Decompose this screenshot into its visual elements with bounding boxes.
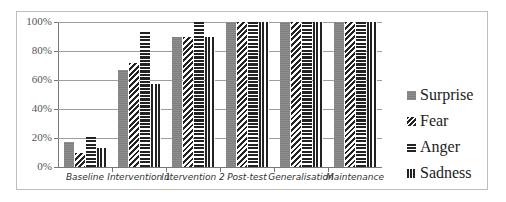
- y-tick-label: 100%: [12, 16, 52, 27]
- legend-item-sadness: Sadness: [407, 160, 473, 186]
- bar-sadness: [97, 148, 107, 167]
- y-tick-label: 20%: [12, 132, 52, 143]
- bar-fear: [129, 63, 139, 167]
- bar-surprise: [64, 142, 74, 167]
- y-tick: [54, 167, 58, 168]
- bar-anger: [302, 22, 312, 167]
- diagonal-stripes-swatch-icon: [407, 117, 416, 126]
- y-tick-label: 0%: [12, 161, 52, 172]
- legend-item-anger: Anger: [407, 134, 473, 160]
- category-group: [112, 22, 166, 167]
- legend-item-surprise: Surprise: [407, 82, 473, 108]
- legend: SurpriseFearAngerSadness: [407, 82, 473, 186]
- category-group: [220, 22, 274, 167]
- x-tick-label: Maintenance: [326, 172, 384, 182]
- bar-anger: [140, 31, 150, 167]
- legend-label: Anger: [420, 138, 460, 156]
- category-group: [166, 22, 220, 167]
- bar-sadness: [313, 22, 323, 167]
- bar-sadness: [367, 22, 377, 167]
- legend-label: Sadness: [420, 164, 472, 182]
- legend-item-fear: Fear: [407, 108, 473, 134]
- category-group: [328, 22, 382, 167]
- y-tick-label: 60%: [12, 74, 52, 85]
- bar-anger: [194, 22, 204, 167]
- bar-fear: [237, 22, 247, 167]
- legend-label: Fear: [420, 112, 448, 130]
- bar-sadness: [259, 22, 269, 167]
- bar-fear: [345, 22, 355, 167]
- x-tick-label: Baseline: [66, 172, 104, 182]
- x-tick-label: Generalisation: [268, 172, 333, 182]
- plot-area: 0%20%40%60%80%100%: [58, 22, 382, 167]
- bar-sadness: [151, 84, 161, 167]
- x-tick-label: Intervention 2: [161, 172, 225, 182]
- bar-surprise: [334, 22, 344, 167]
- bar-sadness: [205, 37, 215, 168]
- bar-surprise: [172, 37, 182, 168]
- x-tick-label: Post-test: [227, 172, 267, 182]
- solid-grey-swatch-icon: [407, 91, 416, 100]
- bar-fear: [75, 153, 85, 168]
- horizontal-stripes-swatch-icon: [407, 143, 416, 152]
- y-tick-label: 40%: [12, 103, 52, 114]
- bar-fear: [291, 22, 301, 167]
- y-tick-label: 80%: [12, 45, 52, 56]
- bar-anger: [248, 22, 258, 167]
- bar-surprise: [280, 22, 290, 167]
- category-group: [58, 22, 112, 167]
- bar-fear: [183, 37, 193, 168]
- legend-label: Surprise: [420, 86, 473, 104]
- bar-surprise: [226, 22, 236, 167]
- vertical-stripes-swatch-icon: [407, 169, 416, 178]
- bar-surprise: [118, 70, 128, 167]
- category-group: [274, 22, 328, 167]
- bar-anger: [356, 22, 366, 167]
- bar-anger: [86, 135, 96, 167]
